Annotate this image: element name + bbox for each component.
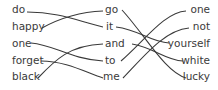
right-word-one: one	[190, 3, 210, 15]
left-word-do: do	[12, 3, 25, 15]
middle-word-go: go	[105, 3, 118, 15]
line-to-one	[121, 11, 186, 61]
middle-word-it: it	[106, 20, 113, 32]
right-word-not: not	[193, 20, 210, 32]
right-word-white: white	[181, 54, 210, 66]
left-word-forget: forget	[12, 54, 44, 66]
left-word-one: one	[12, 37, 32, 49]
left-word-black: black	[12, 70, 40, 82]
right-word-yourself: yourself	[168, 37, 210, 49]
middle-word-me: me	[103, 70, 120, 82]
middle-word-to: to	[105, 54, 116, 66]
line-forget-me	[41, 61, 103, 78]
right-word-lucky: lucky	[183, 70, 210, 82]
middle-word-and: and	[105, 37, 125, 49]
left-word-happy: happy	[12, 20, 45, 32]
